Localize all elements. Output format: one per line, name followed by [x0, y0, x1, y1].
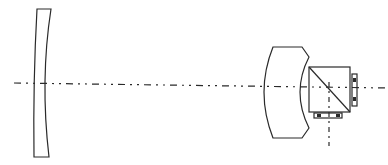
optical-diagram: [0, 0, 388, 165]
bottom-sensor: [314, 113, 342, 118]
beam-splitter-prism: [309, 67, 350, 112]
diagram-canvas: [0, 0, 388, 165]
main-optical-axis: [14, 83, 388, 88]
large-lens-element: [264, 47, 309, 138]
side-sensor-right: [352, 74, 357, 106]
